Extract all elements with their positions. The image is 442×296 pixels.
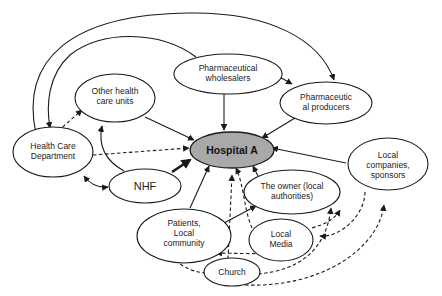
edge-producers-hospital (262, 118, 295, 138)
node-label: Local (174, 228, 194, 238)
edge-nhf-hospital (172, 160, 190, 172)
node-label: Health Care (30, 141, 76, 151)
node-pharmaceutical-wholesalers: Pharmaceutical wholesalers (174, 54, 282, 94)
node-nhf: NHF (109, 169, 181, 203)
node-label: Pharmaceutical (199, 63, 258, 73)
node-label: care units (97, 96, 134, 106)
node-label: Hospital A (206, 144, 258, 156)
node-label: community (163, 238, 205, 248)
node-label: wholesalers (205, 73, 251, 83)
node-other-health-care-units: Other health care units (75, 74, 155, 122)
node-patients-local-community: Patients, Local community (137, 209, 231, 263)
node-the-owner: The owner (local authorities) (244, 170, 340, 214)
edge-patients-owner (224, 206, 256, 223)
node-label: Media (269, 239, 292, 249)
edge-companies-hospital (272, 148, 346, 163)
node-local-companies-sponsors: Local companies, sponsors (348, 138, 428, 190)
node-health-care-department: Health Care Department (13, 127, 93, 177)
node-label: Department (31, 151, 76, 161)
edge-church-hospital (228, 175, 232, 259)
node-label: Other health (92, 86, 139, 96)
edge-hcd-nhf (84, 176, 108, 187)
node-label: al producers (303, 102, 350, 112)
node-label: The owner (local (261, 181, 324, 191)
node-pharmaceutical-producers: Pharmaceutic al producers (280, 82, 372, 124)
node-label: Patients, (167, 218, 200, 228)
node-local-media: Local Media (249, 219, 313, 261)
node-hospital-a: Hospital A (190, 132, 274, 168)
node-label: NHF (134, 180, 157, 192)
node-label: sponsors (371, 170, 406, 180)
node-label: Local (378, 150, 398, 160)
node-label: authorities) (271, 191, 313, 201)
edge-patients-hospital (190, 166, 209, 208)
edge-media-owner (312, 210, 340, 228)
node-church: Church (204, 258, 260, 286)
edge-otherunits-hospital (145, 117, 194, 140)
node-label: companies, (366, 160, 409, 170)
edge-nhf-otherunits (101, 126, 124, 171)
node-label: Local (271, 229, 291, 239)
node-label: Church (218, 267, 246, 277)
edge-hcd-hospital (93, 148, 189, 155)
edge-owner-hospital (253, 166, 258, 176)
node-label: Pharmaceutic (300, 92, 353, 102)
stakeholder-diagram: Pharmaceutical wholesalers Pharmaceutic … (0, 0, 442, 296)
